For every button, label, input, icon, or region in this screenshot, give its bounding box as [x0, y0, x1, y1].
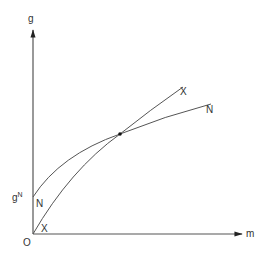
curve-n: [33, 104, 211, 197]
intersection-point: [118, 132, 122, 136]
curve-x: [33, 87, 183, 234]
curve-x-end-label: X: [180, 86, 187, 97]
curve-n-end-label: N: [206, 104, 213, 115]
curve-n-start-label: N: [36, 198, 43, 209]
diagram-canvas: g m O gN N N X X: [0, 0, 266, 258]
curve-x-start-label: X: [41, 223, 48, 234]
y-axis-label: g: [28, 13, 34, 24]
origin-label: O: [23, 237, 31, 248]
x-axis-label: m: [246, 228, 254, 239]
intercept-label: gN: [12, 191, 23, 203]
